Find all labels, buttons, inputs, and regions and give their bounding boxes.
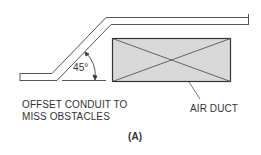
caption-line-1: OFFSET CONDUIT TO	[22, 99, 127, 111]
duct-label: AIR DUCT	[190, 103, 238, 115]
caption-line-2: MISS OBSTACLES	[22, 111, 110, 123]
air-duct	[113, 39, 231, 100]
angle-label: 45°	[73, 62, 88, 74]
figure-label: (A)	[128, 131, 142, 143]
